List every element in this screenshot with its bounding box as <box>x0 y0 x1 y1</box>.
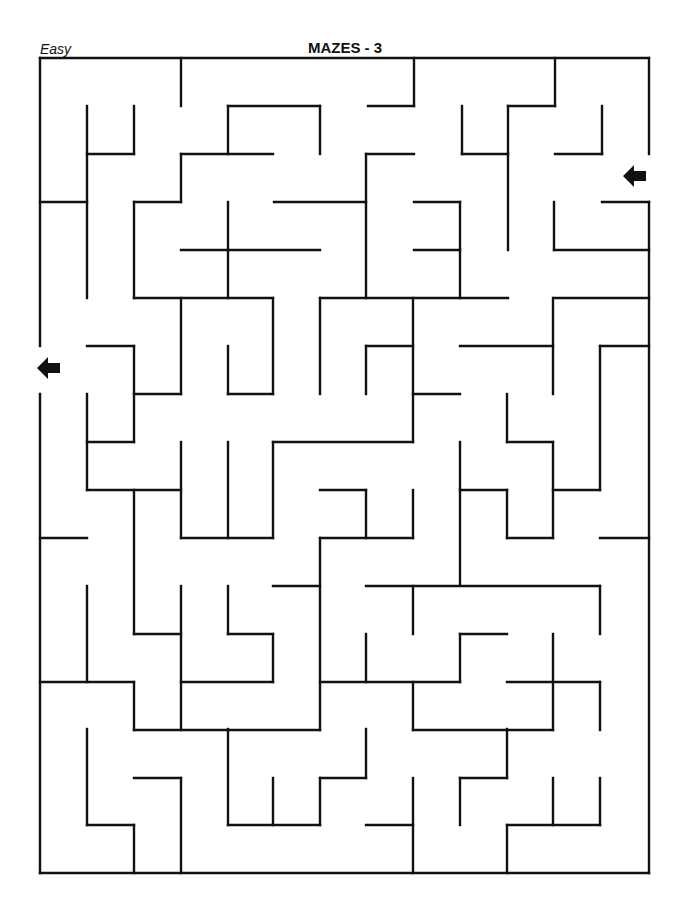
exit-arrow-icon <box>37 357 61 379</box>
maze-grid <box>0 0 682 919</box>
entrance-arrow-icon <box>623 165 647 187</box>
